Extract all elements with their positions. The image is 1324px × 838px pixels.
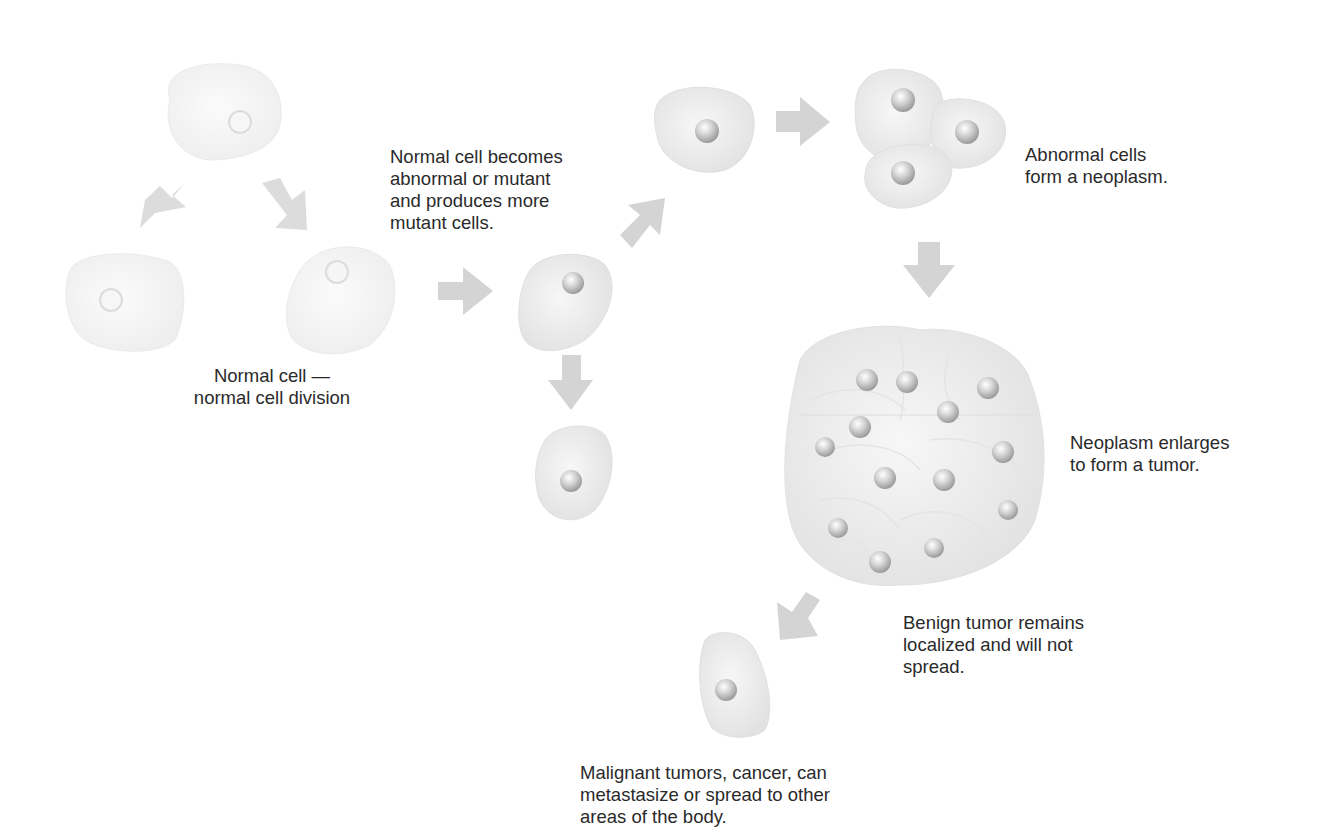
- nucleus-icon: [924, 538, 944, 558]
- nucleus-icon: [695, 119, 719, 143]
- nucleus-icon: [229, 111, 251, 133]
- normal-daughter-cell-right: [286, 247, 394, 354]
- nucleus-icon: [869, 551, 891, 573]
- label-neoplasm: Abnormal cells form a neoplasm.: [1025, 144, 1245, 188]
- nucleus-icon: [849, 416, 871, 438]
- arrow-down-icon: [903, 242, 955, 298]
- neoplasm-cluster: [855, 69, 1005, 208]
- normal-parent-cell: [168, 64, 281, 160]
- label-normal-cell-division: Normal cell — normal cell division: [162, 365, 382, 409]
- arrow-down-left-icon: [140, 183, 186, 228]
- label-benign-tumor: Benign tumor remains localized and will …: [903, 612, 1163, 678]
- nucleus-icon: [937, 401, 959, 423]
- nucleus-icon: [955, 120, 979, 144]
- label-malignant-tumor: Malignant tumors, cancer, can metastasiz…: [580, 762, 900, 828]
- nucleus-icon: [874, 467, 896, 489]
- arrow-down-icon: [548, 355, 593, 410]
- label-mutant-cell: Normal cell becomes abnormal or mutant a…: [390, 146, 630, 234]
- normal-daughter-cell-left: [66, 254, 184, 351]
- arrow-right-icon: [438, 267, 493, 315]
- nucleus-icon: [933, 469, 955, 491]
- label-tumor: Neoplasm enlarges to form a tumor.: [1070, 432, 1300, 476]
- mutant-daughter-cell-bottom: [536, 426, 612, 520]
- nucleus-icon: [891, 161, 915, 185]
- arrow-down-right-icon: [262, 178, 307, 230]
- arrow-right-icon: [776, 97, 830, 146]
- nucleus-icon: [100, 289, 122, 311]
- nucleus-icon: [891, 88, 915, 112]
- metastatic-cell: [700, 633, 770, 738]
- nucleus-icon: [560, 470, 582, 492]
- nucleus-icon: [715, 679, 737, 701]
- nucleus-icon: [977, 377, 999, 399]
- nucleus-icon: [896, 371, 918, 393]
- mutant-cell: [519, 254, 612, 350]
- cell-progression-diagram: [0, 0, 1324, 838]
- nucleus-icon: [326, 261, 348, 283]
- nucleus-icon: [992, 441, 1014, 463]
- nucleus-icon: [562, 272, 584, 294]
- nucleus-icon: [815, 437, 835, 457]
- nucleus-icon: [998, 500, 1018, 520]
- mutant-daughter-cell-top: [655, 87, 755, 172]
- nucleus-icon: [828, 518, 848, 538]
- arrow-down-left-icon: [777, 592, 820, 640]
- nucleus-icon: [856, 369, 878, 391]
- tumor-mass: [785, 326, 1044, 585]
